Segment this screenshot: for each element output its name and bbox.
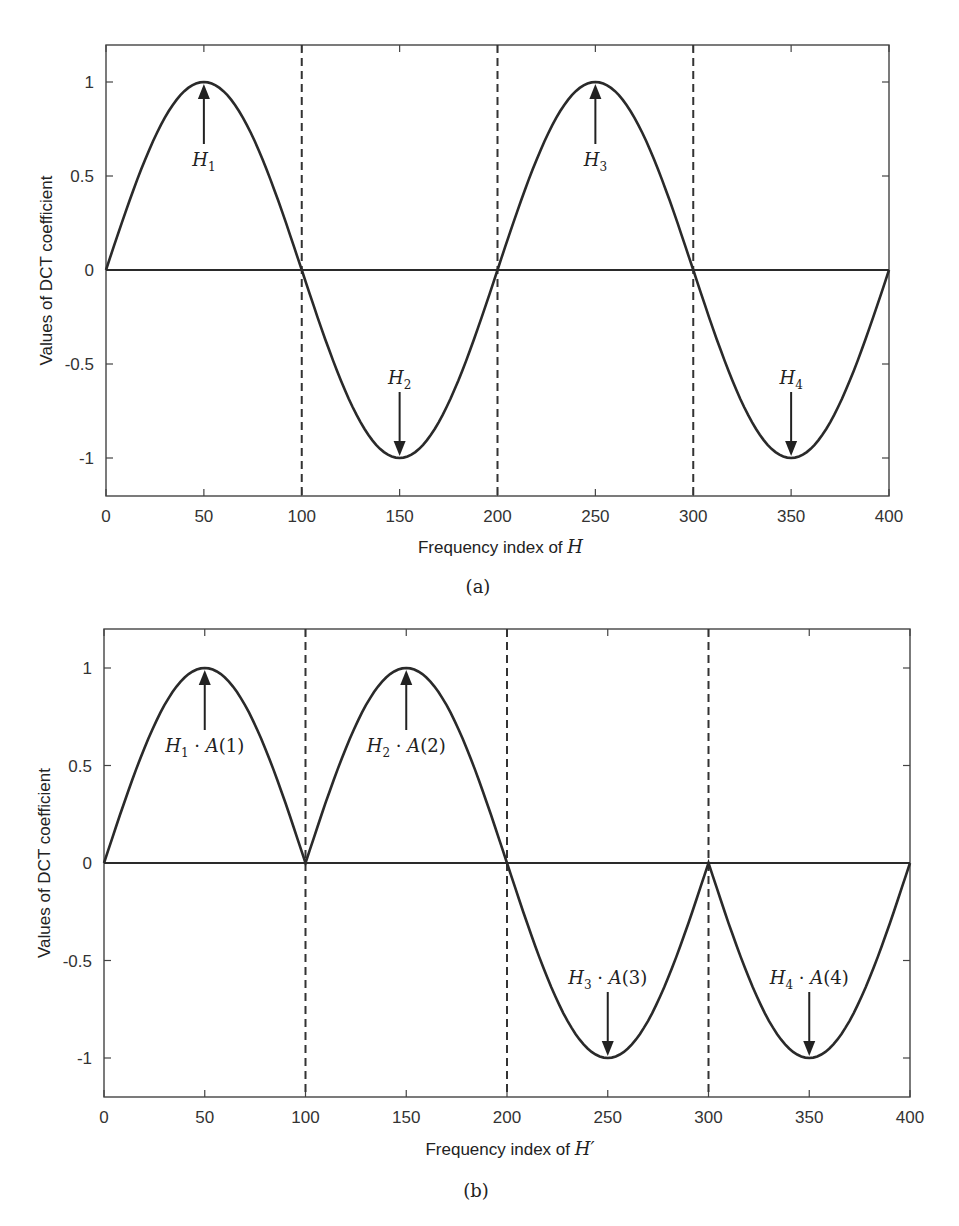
annotation-label: H3 · A(3) — [567, 967, 647, 992]
y-axis-label: Values of DCT coefficient — [35, 768, 54, 958]
x-tick-label: 400 — [896, 1108, 924, 1127]
chart-panel-a: 05010015020025030035040010.50-0.5-1H1H2H… — [37, 45, 903, 557]
figure: 05010015020025030035040010.50-0.5-1H1H2H… — [0, 0, 959, 1226]
x-tick-label: 150 — [392, 1108, 420, 1127]
x-tick-label: 100 — [291, 1108, 319, 1127]
peak-annotation: H3 · A(3) — [567, 967, 647, 1056]
peak-annotation: H3 — [583, 84, 607, 174]
arrowhead-icon — [589, 84, 601, 99]
annotation-label: H1 — [191, 149, 215, 174]
y-tick-label: 1 — [85, 73, 94, 92]
annotation-label: H4 · A(4) — [769, 967, 849, 992]
annotation-label: H1 · A(1) — [164, 735, 244, 760]
arrowhead-icon — [602, 1041, 614, 1056]
x-tick-label: 350 — [777, 507, 805, 526]
arrowhead-icon — [400, 670, 412, 685]
y-tick-label: -0.5 — [65, 355, 94, 374]
arrowhead-icon — [785, 441, 797, 456]
x-tick-label: 150 — [385, 507, 413, 526]
x-tick-label: 300 — [694, 1108, 722, 1127]
x-axis-label: Frequency index of H — [418, 536, 583, 557]
y-tick-label: 0.5 — [70, 167, 94, 186]
y-tick-label: -1 — [77, 1049, 92, 1068]
chart-panel-b: 05010015020025030035040010.50-0.5-1H1 · … — [35, 629, 924, 1159]
peak-annotation: H2 — [387, 367, 411, 456]
x-tick-label: 300 — [679, 507, 707, 526]
y-tick-label: 0.5 — [68, 757, 92, 776]
peak-annotation: H1 · A(1) — [164, 670, 244, 760]
x-tick-label: 200 — [483, 507, 511, 526]
x-tick-label: 350 — [795, 1108, 823, 1127]
arrowhead-icon — [803, 1041, 815, 1056]
x-tick-label: 100 — [288, 507, 316, 526]
y-tick-label: 1 — [83, 659, 92, 678]
x-tick-label: 200 — [493, 1108, 521, 1127]
y-axis-label: Values of DCT coefficient — [37, 175, 56, 365]
peak-annotation: H4 — [778, 367, 803, 456]
x-tick-label: 250 — [581, 507, 609, 526]
x-tick-label: 50 — [195, 1108, 214, 1127]
peak-annotation: H2 · A(2) — [366, 670, 446, 760]
caption-a: (a) — [466, 576, 491, 597]
y-tick-label: 0 — [83, 854, 92, 873]
caption-b: (b) — [463, 1180, 489, 1201]
x-tick-label: 0 — [99, 1108, 108, 1127]
y-tick-label: 0 — [85, 261, 94, 280]
x-tick-label: 50 — [194, 507, 213, 526]
annotation-label: H2 · A(2) — [366, 735, 446, 760]
x-tick-label: 250 — [594, 1108, 622, 1127]
x-tick-label: 0 — [101, 507, 110, 526]
arrowhead-icon — [199, 670, 211, 685]
annotation-label: H3 — [583, 149, 607, 174]
x-axis-label: Frequency index of H′ — [425, 1138, 594, 1159]
arrowhead-icon — [394, 441, 406, 456]
peak-annotation: H1 — [191, 84, 215, 174]
y-tick-label: -1 — [79, 449, 94, 468]
annotation-label: H4 — [778, 367, 803, 392]
peak-annotation: H4 · A(4) — [769, 967, 849, 1056]
arrowhead-icon — [198, 84, 210, 99]
x-tick-label: 400 — [875, 507, 903, 526]
annotation-label: H2 — [387, 367, 411, 392]
y-tick-label: -0.5 — [63, 952, 92, 971]
